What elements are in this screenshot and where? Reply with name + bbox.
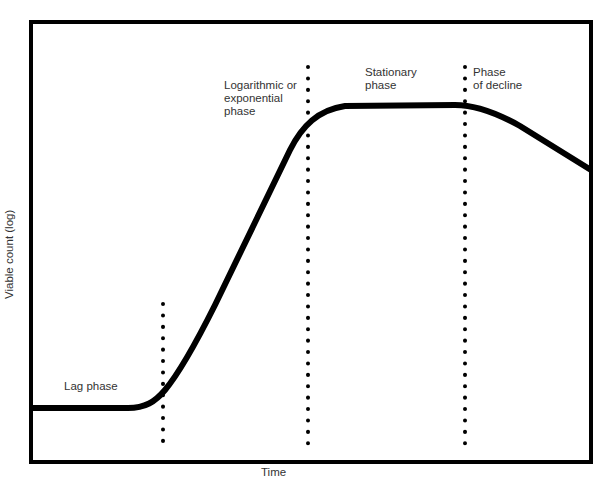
y-axis-label: Viable count (log) (3, 210, 15, 299)
log-phase-label: Logarithmic or exponential phase (224, 79, 297, 118)
x-axis-label: Time (261, 466, 286, 479)
lag-phase-label: Lag phase (64, 380, 118, 393)
decline-phase-label: Phase of decline (473, 66, 522, 92)
growth-curve-line (31, 105, 591, 408)
stationary-phase-label: Stationary phase (365, 66, 417, 92)
